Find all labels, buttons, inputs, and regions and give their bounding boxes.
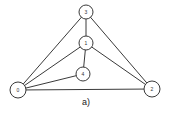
node-2: 2 bbox=[144, 81, 160, 97]
node-4: 4 bbox=[76, 67, 90, 81]
edge-1-0 bbox=[18, 43, 86, 90]
node-0: 0 bbox=[10, 82, 26, 98]
node-label: 3 bbox=[85, 9, 88, 15]
node-label: 2 bbox=[151, 86, 154, 92]
diagram-caption: a) bbox=[82, 97, 90, 107]
node-3: 3 bbox=[79, 5, 93, 19]
edge-3-0 bbox=[18, 12, 86, 90]
node-label: 1 bbox=[85, 40, 88, 46]
edge-0-2 bbox=[18, 89, 152, 90]
edge-4-0 bbox=[18, 74, 83, 90]
node-label: 4 bbox=[82, 71, 85, 77]
node-label: 0 bbox=[17, 87, 20, 93]
node-1: 1 bbox=[79, 36, 93, 50]
